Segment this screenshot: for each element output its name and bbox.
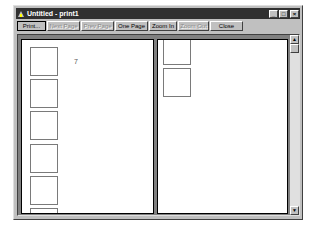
close-preview-button[interactable]: Close — [210, 21, 243, 31]
minimize-button[interactable]: _ — [269, 10, 278, 18]
one-page-button[interactable]: One Page — [115, 21, 148, 31]
right-page — [157, 39, 288, 214]
left-page: 7 — [21, 39, 154, 214]
page-rectangle — [163, 68, 191, 97]
page-rectangle — [30, 208, 58, 214]
page-rectangle — [30, 111, 58, 140]
scroll-down-button[interactable]: ▼ — [290, 206, 299, 215]
page-rectangle — [163, 39, 191, 65]
close-window-button[interactable]: × — [290, 10, 299, 18]
preview-toolbar: Print... Next Page Prev Page One Page Zo… — [17, 21, 243, 32]
app-icon — [17, 10, 25, 18]
page-number: 7 — [74, 58, 78, 65]
prev-page-button[interactable]: Prev Page — [81, 21, 114, 31]
preview-area: 7 ▲ ▼ — [17, 34, 300, 216]
print-button[interactable]: Print... — [17, 21, 46, 31]
title-bar[interactable]: Untitled - print1 _ □ × — [16, 8, 300, 19]
page-rectangle — [30, 79, 58, 108]
page-rectangle — [30, 47, 58, 76]
page-rectangle — [30, 144, 58, 173]
maximize-button[interactable]: □ — [279, 10, 288, 18]
window-title: Untitled - print1 — [27, 8, 269, 19]
next-page-button[interactable]: Next Page — [47, 21, 80, 31]
vertical-scrollbar[interactable]: ▲ ▼ — [290, 35, 299, 215]
zoom-out-button[interactable]: Zoom Out — [178, 21, 209, 31]
page-rectangle — [30, 176, 58, 205]
print-preview-window: Untitled - print1 _ □ × Print... Next Pa… — [13, 5, 303, 220]
scroll-up-button[interactable]: ▲ — [290, 35, 299, 44]
zoom-in-button[interactable]: Zoom In — [149, 21, 177, 31]
scroll-thumb[interactable] — [290, 44, 299, 53]
